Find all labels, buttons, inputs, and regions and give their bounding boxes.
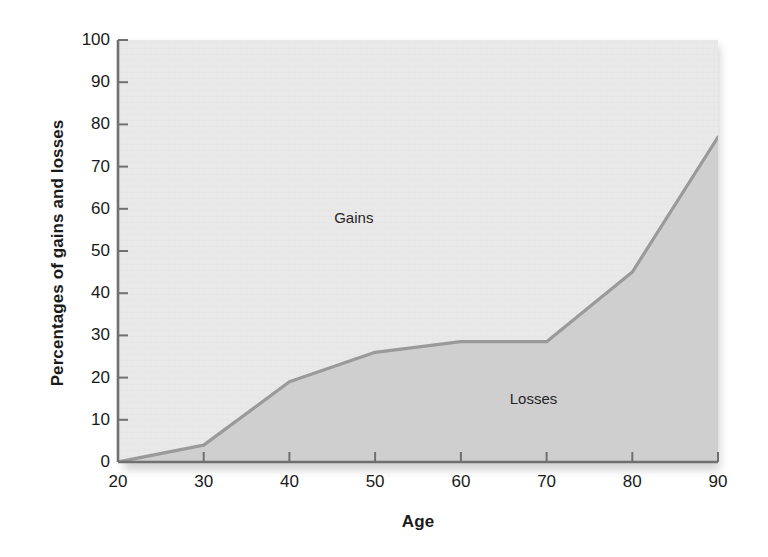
y-axis-title: Percentages of gains and losses	[48, 53, 68, 453]
chart-figure: 0 10 20 30 40 50 60 70 80 90 100 20 30 4…	[0, 0, 768, 557]
x-tick-label-20: 20	[93, 472, 143, 492]
x-axis-title: Age	[118, 512, 718, 532]
x-tick-label-60: 60	[436, 472, 486, 492]
x-tick-label-30: 30	[179, 472, 229, 492]
gains-annotation-label: Gains	[334, 209, 373, 226]
y-tick-label-0: 0	[58, 452, 110, 472]
x-tick-label-40: 40	[264, 472, 314, 492]
x-tick-label-90: 90	[693, 472, 743, 492]
losses-annotation-label: Losses	[510, 390, 558, 407]
x-tick-label-80: 80	[607, 472, 657, 492]
x-tick-label-70: 70	[522, 472, 572, 492]
y-tick-label-100: 100	[58, 30, 110, 50]
x-tick-label-50: 50	[350, 472, 400, 492]
